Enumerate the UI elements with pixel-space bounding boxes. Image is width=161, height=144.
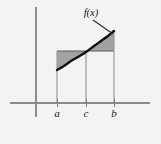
function-label: f(x) <box>84 7 99 19</box>
x-tick-label-c: c <box>84 107 89 119</box>
integral-diagram: a c b f(x) <box>0 0 161 144</box>
x-tick-label-a: a <box>54 107 60 119</box>
x-tick-label-b: b <box>111 107 117 119</box>
figure-canvas: a c b f(x) <box>0 0 161 144</box>
curve-label-leader-line <box>93 20 113 34</box>
